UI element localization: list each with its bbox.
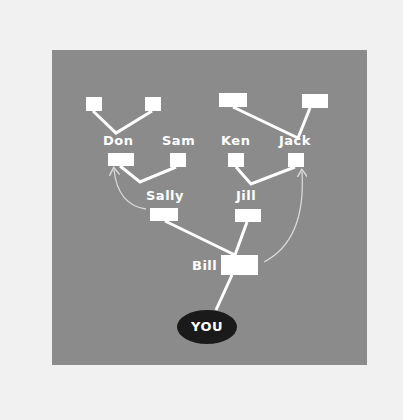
label-don: Don: [103, 133, 133, 148]
label-sam: Sam: [162, 133, 195, 148]
label-you: YOU: [191, 319, 223, 334]
node-bill: [221, 255, 258, 275]
node-jack: [288, 153, 304, 167]
label-jill: Jill: [236, 188, 256, 203]
label-sally: Sally: [146, 188, 184, 203]
arrow-bill-to-jack: [264, 172, 302, 262]
label-bill: Bill: [192, 258, 217, 273]
node-don-parent-1: [86, 97, 102, 111]
node-jack-parent-1: [219, 93, 247, 107]
node-sam: [170, 153, 186, 167]
node-ken: [228, 153, 244, 167]
lineage-arrows: [114, 170, 302, 262]
label-jack: Jack: [279, 133, 311, 148]
label-ken: Ken: [221, 133, 250, 148]
node-don-parent-2: [145, 97, 161, 111]
node-sally: [150, 208, 178, 221]
node-jill: [235, 209, 261, 222]
node-don: [108, 153, 134, 166]
node-jack-parent-2: [302, 94, 328, 108]
family-tree-diagram: [0, 0, 403, 420]
